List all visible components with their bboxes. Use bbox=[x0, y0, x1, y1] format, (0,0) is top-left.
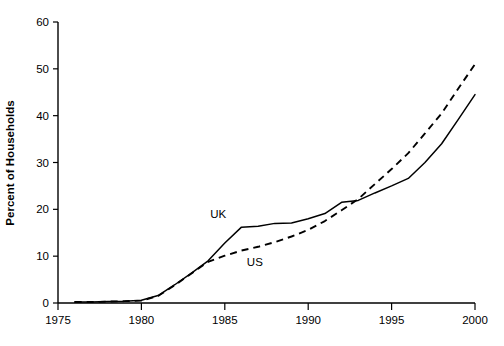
y-tick-label: 60 bbox=[36, 16, 49, 28]
y-axis: 0102030405060 bbox=[36, 16, 58, 309]
y-tick-label: 20 bbox=[36, 203, 49, 215]
y-tick-label: 10 bbox=[36, 250, 49, 262]
series-line-uk bbox=[75, 95, 475, 302]
series-label-us: US bbox=[247, 256, 263, 268]
series-label-uk: UK bbox=[210, 208, 226, 220]
x-tick-label: 1990 bbox=[295, 314, 321, 326]
line-chart: 0102030405060 197519801985199019952000 U… bbox=[0, 0, 504, 346]
y-axis-title: Percent of Households bbox=[4, 100, 16, 225]
data-series-group bbox=[75, 64, 475, 302]
series-annotations: UKUS bbox=[210, 208, 263, 268]
x-tick-label: 1975 bbox=[45, 314, 71, 326]
y-tick-label: 0 bbox=[43, 297, 49, 309]
y-tick-label: 30 bbox=[36, 157, 49, 169]
x-tick-label: 1980 bbox=[129, 314, 155, 326]
x-tick-label: 2000 bbox=[462, 314, 488, 326]
y-tick-label: 40 bbox=[36, 110, 49, 122]
x-axis: 197519801985199019952000 bbox=[45, 303, 488, 326]
series-line-us bbox=[75, 64, 475, 302]
x-tick-label: 1995 bbox=[379, 314, 405, 326]
x-tick-label: 1985 bbox=[212, 314, 238, 326]
y-tick-label: 50 bbox=[36, 63, 49, 75]
chart-container: 0102030405060 197519801985199019952000 U… bbox=[0, 0, 504, 346]
